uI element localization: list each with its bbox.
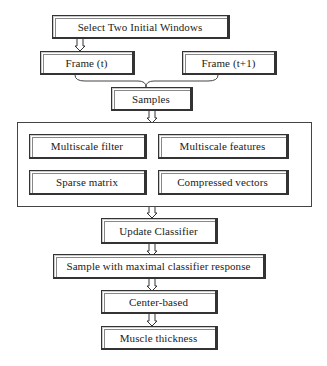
- node-samples: Samples: [111, 87, 193, 111]
- node-label: Multiscale features: [180, 140, 266, 152]
- node-multiscale-filter: Multiscale filter: [29, 134, 147, 159]
- node-update-classifier: Update Classifier: [101, 218, 218, 244]
- node-sparse-matrix: Sparse matrix: [29, 170, 147, 195]
- node-label: Compressed vectors: [177, 176, 268, 188]
- node-compressed-vectors: Compressed vectors: [158, 170, 289, 195]
- node-select-windows: Select Two Initial Windows: [52, 15, 230, 39]
- node-label: Sparse matrix: [56, 176, 118, 188]
- node-label: Samples: [132, 93, 170, 105]
- arrow-down-icon: [147, 206, 157, 218]
- node-label: Center-based: [129, 296, 188, 308]
- node-frame-t1: Frame (t+1): [182, 51, 277, 75]
- arrow-down-icon: [147, 314, 157, 326]
- node-center-based: Center-based: [101, 290, 218, 314]
- node-label: Frame (t+1): [201, 57, 255, 69]
- node-frame-t: Frame (t): [40, 51, 135, 75]
- brace-connector: [75, 75, 218, 87]
- node-muscle-thickness: Muscle thickness: [101, 326, 218, 350]
- node-label: Multiscale filter: [51, 140, 123, 152]
- node-multiscale-features: Multiscale features: [158, 134, 289, 159]
- node-max-response: Sample with maximal classifier response: [53, 254, 266, 279]
- node-label: Update Classifier: [119, 225, 197, 237]
- node-label: Select Two Initial Windows: [78, 21, 203, 33]
- arrow-down-icon: [75, 39, 85, 51]
- node-label: Sample with maximal classifier response: [66, 260, 250, 272]
- node-label: Muscle thickness: [120, 332, 198, 344]
- node-label: Frame (t): [65, 57, 107, 69]
